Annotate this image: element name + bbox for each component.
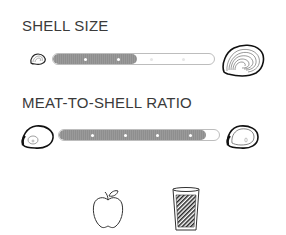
low-meat-oyster-icon — [20, 123, 56, 151]
small-oyster-shell-icon — [29, 52, 47, 66]
high-meat-oyster-icon — [225, 123, 261, 151]
apple-icon — [90, 188, 126, 232]
shell-size-title: SHELL SIZE — [22, 17, 108, 34]
scale-tick — [189, 134, 192, 137]
scale-tick — [117, 58, 120, 61]
meat-to-shell-ratio-scale-bar — [58, 129, 220, 141]
scale-tick — [182, 58, 185, 61]
scale-tick — [156, 134, 159, 137]
scale-tick — [84, 58, 87, 61]
shell-size-scale-fill — [53, 54, 137, 64]
scale-tick — [91, 134, 94, 137]
scale-tick — [150, 58, 153, 61]
glass-icon — [171, 186, 201, 232]
scale-tick — [124, 134, 127, 137]
large-oyster-shell-icon — [220, 42, 266, 78]
meat-to-shell-ratio-scale-fill — [59, 130, 206, 140]
shell-size-scale-bar — [52, 53, 215, 65]
meat-to-shell-ratio-title: MEAT-TO-SHELL RATIO — [22, 94, 192, 111]
